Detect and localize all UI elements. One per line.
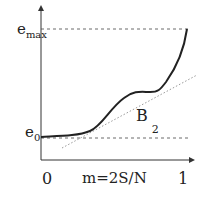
x-label-end: 1 (178, 171, 188, 187)
x-axis-title: m=2S/N (82, 171, 147, 186)
emax-label: emax (17, 22, 47, 40)
diagram: emax e0 B2 0 m=2S/N 1 (0, 0, 204, 200)
b2-label: B2 (136, 108, 155, 124)
x-label-start: 0 (42, 171, 52, 187)
e0-label: e0 (25, 125, 40, 143)
energy-curve (41, 29, 187, 137)
dotted-tangent-line (62, 75, 197, 148)
